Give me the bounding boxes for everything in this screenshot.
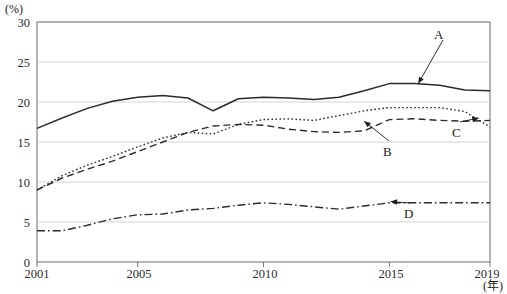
x-tick-label-2005: 2005 bbox=[127, 268, 152, 281]
x-tick-label-2001: 2001 bbox=[25, 268, 50, 281]
x-tick-label-2015: 2015 bbox=[379, 268, 404, 281]
y-tick-label-30: 30 bbox=[2, 17, 30, 30]
y-tick-label-10: 10 bbox=[2, 177, 30, 190]
plot-area bbox=[0, 0, 507, 294]
series-line-d bbox=[37, 203, 490, 231]
annotation-arrowhead-b bbox=[364, 121, 371, 127]
series-label-b: B bbox=[383, 145, 392, 158]
y-tick-label-5: 5 bbox=[2, 217, 30, 230]
x-tick-label-2019: 2019 bbox=[475, 268, 500, 281]
data-series-group bbox=[37, 84, 490, 231]
x-tick-label-2010: 2010 bbox=[253, 268, 278, 281]
y-tick-label-15: 15 bbox=[2, 137, 30, 150]
y-axis-unit-label: (%) bbox=[5, 2, 23, 17]
gridlines bbox=[37, 62, 490, 222]
series-label-d: D bbox=[404, 207, 413, 220]
annotation-arrowhead-d bbox=[391, 199, 398, 204]
series-label-c: C bbox=[452, 126, 461, 139]
line-chart: (%) (年) 30 25 20 15 10 5 0 2001 2005 201… bbox=[0, 0, 507, 294]
series-line-b bbox=[37, 119, 490, 190]
annotation-arrowhead-a bbox=[418, 77, 424, 84]
y-tick-label-25: 25 bbox=[2, 57, 30, 70]
y-tick-label-20: 20 bbox=[2, 97, 30, 110]
series-label-a: A bbox=[434, 28, 443, 41]
series-line-a bbox=[37, 84, 490, 129]
